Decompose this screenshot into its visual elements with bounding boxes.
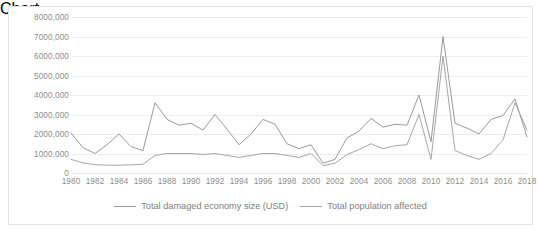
x-axis-tick-label: 1980 — [62, 177, 81, 186]
y-axis-tick-label: 2000,000 — [34, 130, 69, 139]
x-axis-tick-label: 1986 — [134, 177, 153, 186]
y-axis-tick-label: 3000,000 — [34, 110, 69, 119]
y-axis-tick-label: 6000,000 — [34, 52, 69, 61]
x-axis-tick-label: 2002 — [326, 177, 345, 186]
x-axis-tick-label: 2018 — [518, 177, 537, 186]
legend-label-population-affected: Total population affected — [327, 201, 426, 211]
x-axis-tick-label: 1998 — [278, 177, 297, 186]
x-axis-tick-labels: 1980198219841986198819901992199419961998… — [71, 177, 527, 191]
chart-legend: Total damaged economy size (USD) Total p… — [9, 197, 532, 215]
x-axis-tick-label: 1982 — [86, 177, 105, 186]
y-axis-tick-label: 8000,000 — [34, 13, 69, 22]
x-axis-tick-label: 2016 — [494, 177, 513, 186]
legend-label-damaged-economy: Total damaged economy size (USD) — [141, 201, 288, 211]
x-axis-tick-label: 2000 — [302, 177, 321, 186]
y-axis-tick-label: 4000,000 — [34, 91, 69, 100]
x-axis-tick-label: 2014 — [470, 177, 489, 186]
legend-item-damaged-economy[interactable]: Total damaged economy size (USD) — [114, 201, 288, 211]
chart-series-lines — [71, 17, 527, 173]
y-axis-tick-labels: 8000,0007000,0006000,0005000,0004000,000… — [13, 17, 69, 173]
x-axis-tick-label: 1988 — [158, 177, 177, 186]
legend-item-population-affected[interactable]: Total population affected — [300, 201, 426, 211]
x-axis-tick-label: 2012 — [446, 177, 465, 186]
gridline — [71, 173, 527, 174]
x-axis-tick-label: 1994 — [230, 177, 249, 186]
x-axis-tick-label: 2004 — [350, 177, 369, 186]
series-line — [71, 37, 527, 164]
y-axis-tick-label: 7000,000 — [34, 32, 69, 41]
chart-plot-area: 8000,0007000,0006000,0005000,0004000,000… — [9, 7, 532, 224]
x-axis-tick-label: 1996 — [254, 177, 273, 186]
y-axis-tick-label: 1000,000 — [34, 149, 69, 158]
x-axis-tick-label: 1992 — [206, 177, 225, 186]
legend-swatch-icon-population-affected — [300, 206, 322, 207]
x-axis-tick-label: 1990 — [182, 177, 201, 186]
x-axis-tick-label: 2010 — [422, 177, 441, 186]
chart-card: 8000,0007000,0006000,0005000,0004000,000… — [8, 6, 533, 225]
x-axis-tick-label: 2006 — [374, 177, 393, 186]
y-axis-tick-label: 5000,000 — [34, 71, 69, 80]
legend-swatch-icon-damaged-economy — [114, 206, 136, 207]
x-axis-tick-label: 2008 — [398, 177, 417, 186]
x-axis-tick-label: 1984 — [110, 177, 129, 186]
